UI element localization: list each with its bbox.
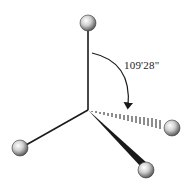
bond-bottom-right-wedge <box>88 110 147 168</box>
atom-left <box>12 140 28 156</box>
atom-top <box>80 15 96 31</box>
tetrahedral-diagram: 109'28" <box>0 0 188 186</box>
bond-angle-label: 109'28" <box>124 59 159 71</box>
angle-arrow <box>92 53 128 106</box>
atom-bottom-right <box>138 162 154 178</box>
bond-right-hashed-wedge <box>92 111 160 129</box>
bond-left <box>26 110 88 145</box>
molecule-drawing <box>0 0 188 186</box>
atom-right <box>164 120 180 136</box>
